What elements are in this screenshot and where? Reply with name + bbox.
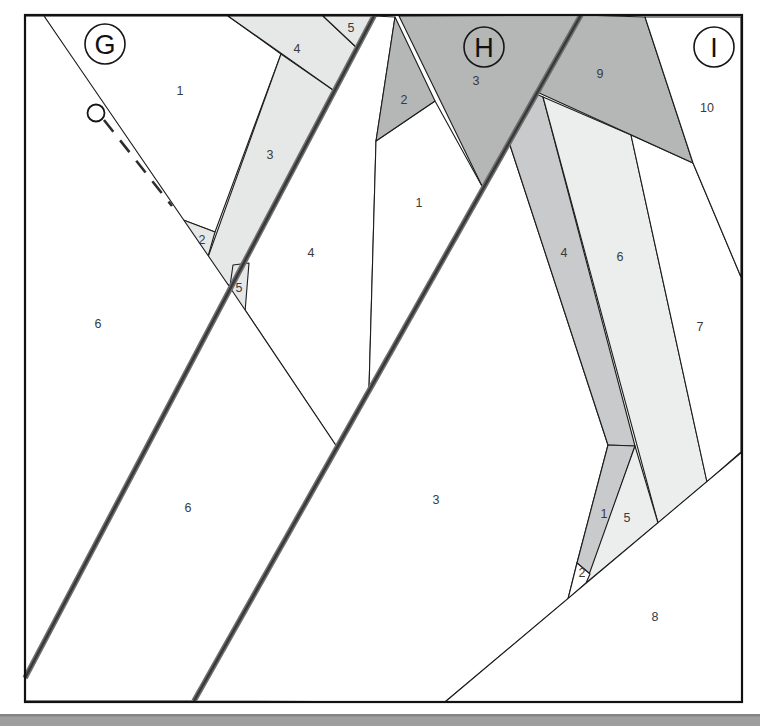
piece-label-H3: 3 bbox=[473, 74, 480, 88]
pattern-diagram: 12345641235634615278910GHI bbox=[0, 0, 760, 726]
piece-label-I4: 4 bbox=[561, 246, 568, 260]
piece-label-H4: 4 bbox=[308, 246, 315, 260]
piece-label-I7: 7 bbox=[697, 320, 704, 334]
piece-label-G1: 1 bbox=[177, 84, 184, 98]
piece-label-H1: 1 bbox=[416, 196, 423, 210]
piece-label-I3: 3 bbox=[433, 493, 440, 507]
section-letter-I: I bbox=[710, 33, 718, 63]
section-letter-H: H bbox=[474, 33, 494, 63]
section-letter-G: G bbox=[94, 30, 115, 60]
piece-label-H6: 6 bbox=[185, 501, 192, 515]
piece-label-G6: 6 bbox=[95, 317, 102, 331]
piece-label-G4: 4 bbox=[294, 42, 301, 56]
piece-label-I5: 5 bbox=[624, 511, 631, 525]
piece-label-I6: 6 bbox=[617, 250, 624, 264]
pattern-page: 12345641235634615278910GHI bbox=[0, 0, 760, 726]
piece-label-I9: 9 bbox=[597, 67, 604, 81]
marker-circle bbox=[88, 105, 105, 122]
footer-bar-edge bbox=[0, 714, 760, 716]
piece-label-G5: 5 bbox=[348, 21, 355, 35]
piece-label-I10: 10 bbox=[700, 101, 714, 115]
piece-label-H2: 2 bbox=[401, 93, 408, 107]
piece-label-G2: 2 bbox=[199, 233, 206, 247]
piece-label-I2: 2 bbox=[579, 566, 586, 580]
piece-label-I8: 8 bbox=[652, 610, 659, 624]
piece-label-H5: 5 bbox=[236, 281, 243, 295]
piece-label-G3: 3 bbox=[267, 148, 274, 162]
piece-label-I1: 1 bbox=[601, 507, 608, 521]
